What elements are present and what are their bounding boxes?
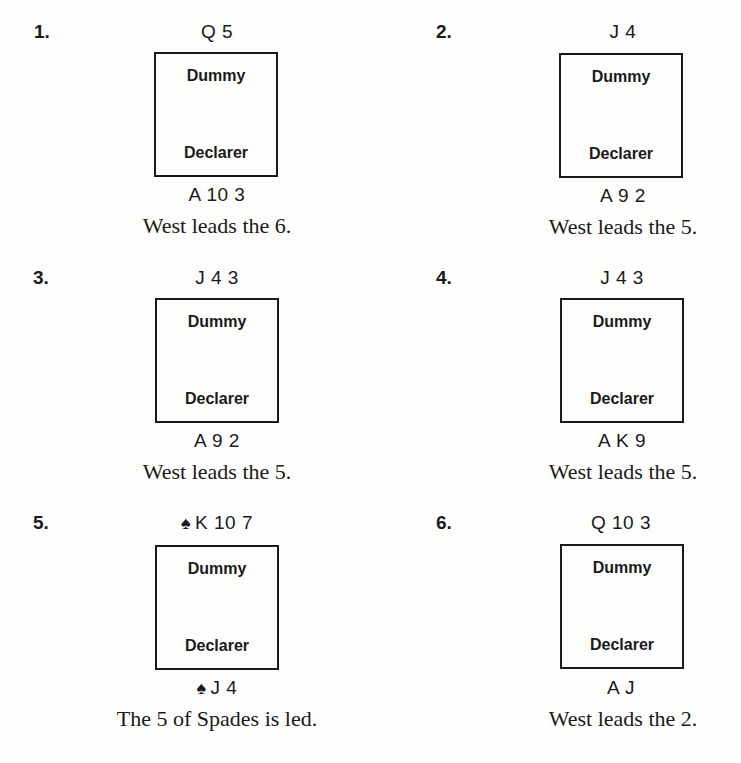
problem-4: 4. J 4 3 Dummy Declarer A K 9 West leads… [370,250,740,500]
declarer-holding: A K 9 [522,431,722,451]
dummy-holding: ♠K 10 7 [117,513,317,533]
dummy-holding: J 4 [523,22,723,42]
lead-caption: West leads the 2. [473,707,741,731]
declarer-holding: A J [521,678,721,698]
problem-number: 4. [436,268,452,288]
dummy-label: Dummy [156,67,276,85]
declarer-holding: A 9 2 [523,186,723,206]
dummy-holding: Q 10 3 [521,513,721,533]
table-diagram: Dummy Declarer [560,544,684,669]
dummy-label: Dummy [561,68,681,86]
table-diagram: Dummy Declarer [559,53,683,178]
dummy-label: Dummy [157,560,277,578]
dummy-holding: J 4 3 [522,268,722,288]
lead-caption: West leads the 5. [67,460,367,484]
problem-number: 1. [34,22,50,42]
table-diagram: Dummy Declarer [155,298,279,423]
problem-number: 6. [436,513,452,533]
declarer-label: Declarer [156,144,276,162]
declarer-label: Declarer [157,637,277,655]
declarer-holding: A 10 3 [117,185,317,205]
problem-number: 3. [33,268,49,288]
spade-icon: ♠ [197,678,207,698]
table-diagram: Dummy Declarer [154,52,278,177]
dummy-label: Dummy [562,313,682,331]
problem-3: 3. J 4 3 Dummy Declarer A 9 2 West leads… [0,250,370,500]
declarer-label: Declarer [562,390,682,408]
declarer-holding: A 9 2 [117,431,317,451]
dummy-label: Dummy [562,559,682,577]
problem-5: 5. ♠K 10 7 Dummy Declarer ♠J 4 The 5 of … [0,500,370,750]
lead-caption: West leads the 6. [67,214,367,238]
problem-number: 5. [33,513,49,533]
declarer-label: Declarer [157,390,277,408]
dummy-holding: J 4 3 [117,268,317,288]
spade-icon: ♠ [181,513,191,533]
declarer-label: Declarer [562,636,682,654]
table-diagram: Dummy Declarer [155,545,279,670]
lead-caption: West leads the 5. [473,215,741,239]
declarer-label: Declarer [561,145,681,163]
problem-6: 6. Q 10 3 Dummy Declarer A J West leads … [370,500,740,750]
dummy-label: Dummy [157,313,277,331]
lead-caption: The 5 of Spades is led. [67,707,367,731]
problem-2: 2. J 4 Dummy Declarer A 9 2 West leads t… [370,0,740,250]
table-diagram: Dummy Declarer [560,298,684,423]
dummy-holding: Q 5 [117,22,317,42]
problem-number: 2. [436,22,452,42]
declarer-holding: ♠J 4 [117,678,317,698]
lead-caption: West leads the 5. [473,460,741,484]
problem-1: 1. Q 5 Dummy Declarer A 10 3 West leads … [0,0,370,250]
